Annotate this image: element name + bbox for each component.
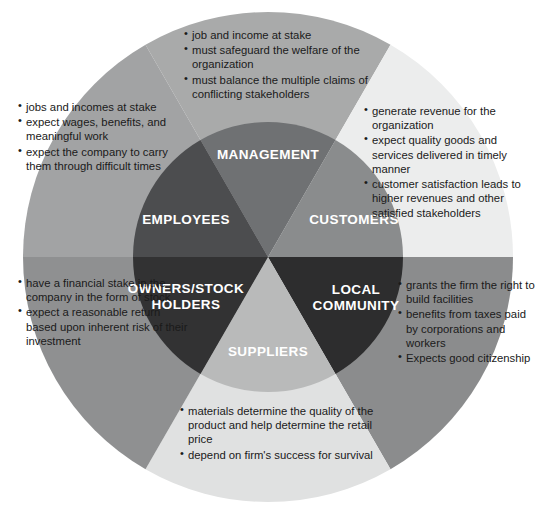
note-list-management: •job and income at stake•must safeguard …: [192, 28, 382, 101]
note-bullet: •must safeguard the welfare of the organ…: [192, 43, 382, 71]
note-bullet: •benefits from taxes paid by corporation…: [406, 307, 536, 350]
note-employees: •jobs and incomes at stake•expect wages,…: [26, 100, 186, 174]
note-list-suppliers: •materials determine the quality of the …: [188, 404, 378, 462]
bullet-icon: •: [398, 306, 402, 320]
segment-label-management: MANAGEMENT: [217, 147, 320, 162]
note-local-community: •grants the firm the right to build faci…: [406, 278, 536, 366]
note-list-owners: •have a financial stake in the company i…: [26, 276, 190, 348]
note-bullet: •expect quality goods and services deliv…: [372, 133, 524, 176]
bullet-icon: •: [184, 27, 188, 41]
note-customers: •generate revenue for the organization•e…: [372, 104, 524, 221]
note-owners: •have a financial stake in the company i…: [26, 276, 190, 349]
note-bullet-text: have a financial stake in the company in…: [26, 276, 190, 304]
stakeholder-diagram: MANAGEMENTCUSTOMERSLOCALCOMMUNITYSUPPLIE…: [0, 0, 545, 508]
note-bullet: •depend on firm's success for survival: [188, 448, 378, 462]
note-bullet: •jobs and incomes at stake: [26, 100, 186, 114]
bullet-icon: •: [18, 114, 22, 128]
segment-label-employees: EMPLOYEES: [142, 212, 230, 227]
bullet-icon: •: [180, 403, 184, 417]
note-bullet: •expect wages, benefits, and meaningful …: [26, 115, 186, 143]
note-bullet: •customer satisfaction leads to higher r…: [372, 177, 524, 220]
bullet-icon: •: [398, 350, 402, 364]
bullet-icon: •: [18, 99, 22, 113]
note-bullet: •expect a reasonable return based upon i…: [26, 305, 190, 348]
note-bullet-text: grants the firm the right to build facil…: [406, 278, 536, 306]
segment-label-suppliers: SUPPLIERS: [228, 344, 308, 359]
note-bullet-text: Expects good citizenship: [406, 351, 536, 365]
note-list-customers: •generate revenue for the organization•e…: [372, 104, 524, 220]
note-list-community: •grants the firm the right to build faci…: [406, 278, 536, 365]
note-bullet: •expect the company to carry them throug…: [26, 145, 186, 173]
bullet-icon: •: [180, 447, 184, 461]
note-bullet-text: expect the company to carry them through…: [26, 145, 186, 173]
note-bullet-text: expect a reasonable return based upon in…: [26, 305, 190, 348]
note-bullet-text: must safeguard the welfare of the organi…: [192, 43, 382, 71]
bullet-icon: •: [364, 132, 368, 146]
bullet-icon: •: [364, 103, 368, 117]
note-bullet-text: job and income at stake: [192, 28, 382, 42]
bullet-icon: •: [184, 42, 188, 56]
note-bullet: •grants the firm the right to build faci…: [406, 278, 536, 306]
bullet-icon: •: [184, 72, 188, 86]
note-bullet-text: must balance the multiple claims of conf…: [192, 73, 382, 101]
note-bullet: •materials determine the quality of the …: [188, 404, 378, 447]
note-bullet: •job and income at stake: [192, 28, 382, 42]
note-bullet: •generate revenue for the organization: [372, 104, 524, 132]
note-bullet-text: customer satisfaction leads to higher re…: [372, 177, 524, 220]
note-bullet: •Expects good citizenship: [406, 351, 536, 365]
note-bullet-text: materials determine the quality of the p…: [188, 404, 378, 447]
note-bullet-text: jobs and incomes at stake: [26, 100, 186, 114]
note-suppliers: •materials determine the quality of the …: [188, 404, 378, 463]
note-list-employees: •jobs and incomes at stake•expect wages,…: [26, 100, 186, 173]
note-bullet-text: depend on firm's success for survival: [188, 448, 378, 462]
bullet-icon: •: [398, 277, 402, 291]
bullet-icon: •: [18, 275, 22, 289]
note-management: •job and income at stake•must safeguard …: [192, 28, 382, 102]
note-bullet-text: benefits from taxes paid by corporations…: [406, 307, 536, 350]
note-bullet-text: generate revenue for the organization: [372, 104, 524, 132]
bullet-icon: •: [364, 176, 368, 190]
note-bullet-text: expect wages, benefits, and meaningful w…: [26, 115, 186, 143]
note-bullet: •have a financial stake in the company i…: [26, 276, 190, 304]
note-bullet: •must balance the multiple claims of con…: [192, 73, 382, 101]
bullet-icon: •: [18, 144, 22, 158]
note-bullet-text: expect quality goods and services delive…: [372, 133, 524, 176]
bullet-icon: •: [18, 304, 22, 318]
